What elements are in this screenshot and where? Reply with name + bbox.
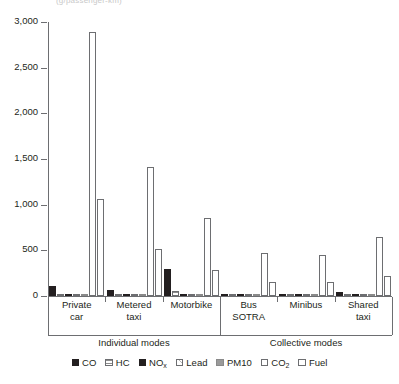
bar[interactable] [73,294,80,296]
bar[interactable] [269,282,276,296]
bar[interactable] [57,294,64,296]
bar[interactable] [384,276,391,296]
bar[interactable] [147,167,154,296]
y-tick-mark [41,22,47,23]
legend-label: NOx [149,357,167,368]
bar[interactable] [311,294,318,296]
y-tick-mark [41,113,47,114]
legend-swatch-icon [216,359,224,367]
supergroup-axis-band: Individual modesCollective modes [48,335,392,353]
legend-swatch-icon [261,359,269,367]
legend-item[interactable]: NOx [139,357,167,368]
legend-item[interactable]: Fuel [298,357,327,368]
x-tick-mark [163,297,164,302]
bar[interactable] [196,294,203,296]
legend-swatch-icon [176,359,184,367]
y-tick-label: 1,000 [14,198,38,209]
bar[interactable] [319,255,326,296]
y-tick-mark [41,68,47,69]
bar[interactable] [139,294,146,296]
bar-group-bars [279,22,334,296]
legend-swatch-icon [72,359,80,367]
supergroup-separator [48,297,49,335]
bar[interactable] [188,294,195,296]
x-tick-mark [105,297,106,302]
supergroup-rule [220,335,392,336]
legend-item[interactable]: PM10 [216,357,251,368]
category-axis-band: PrivatecarMeteredtaxiMotorbikeBusSOTRAMi… [48,297,392,337]
emissions-bar-chart: (g/passenger-km) 05001,0001,5002,0002,50… [0,0,399,384]
y-tick-label: 3,000 [14,15,38,26]
bar[interactable] [261,253,268,296]
bar-group-bars [49,22,104,296]
x-axis-category-label: Privatecar [48,299,105,322]
y-tick-label: 0 [33,289,38,300]
bar[interactable] [164,269,171,296]
bar[interactable] [81,294,88,296]
legend-item[interactable]: Lead [176,357,208,368]
bar[interactable] [360,294,367,296]
bar[interactable] [123,294,130,296]
y-tick-label: 500 [22,243,38,254]
bar[interactable] [245,294,252,296]
supergroup-label: Collective modes [220,337,392,348]
legend-label: Fuel [309,357,327,368]
x-axis-category-label: Motorbike [163,299,220,311]
legend-label: Lead [186,357,207,368]
chart-legend: COHCNOxLeadPM10CO2Fuel [0,357,399,368]
bar-group-bars [336,22,391,296]
legend-label: CO2 [271,357,289,368]
x-tick-mark [335,297,336,302]
x-tick-mark [277,297,278,302]
supergroup-separator [220,297,221,335]
bar[interactable] [115,294,122,296]
y-tick-mark [41,250,47,251]
legend-item[interactable]: CO2 [261,357,290,368]
x-axis-category-label: Minibus [277,299,334,311]
bar[interactable] [229,294,236,296]
supergroup-rule [48,335,220,336]
legend-label: PM10 [227,357,252,368]
bar[interactable] [327,282,334,296]
legend-swatch-icon [105,359,113,367]
bar[interactable] [344,294,351,296]
bar[interactable] [303,294,310,296]
bar[interactable] [107,290,114,296]
bar-group-bars [221,22,276,296]
bar[interactable] [212,270,219,296]
bar[interactable] [376,237,383,296]
bar[interactable] [237,294,244,296]
y-tick-label: 2,000 [14,106,38,117]
bar-group-bars [107,22,162,296]
bar[interactable] [352,294,359,296]
bar[interactable] [49,286,56,296]
supergroup-label: Individual modes [48,337,220,348]
bar[interactable] [89,32,96,296]
bar[interactable] [172,291,179,296]
bar[interactable] [368,294,375,296]
bar[interactable] [287,294,294,296]
bar-group-bars [164,22,219,296]
bar[interactable] [295,294,302,296]
bar[interactable] [65,294,72,296]
y-tick-mark [41,296,47,297]
bar[interactable] [253,294,260,296]
legend-item[interactable]: CO [72,357,97,368]
bar[interactable] [180,294,187,296]
legend-label: HC [116,357,130,368]
x-axis-category-label: Meteredtaxi [105,299,162,322]
bar[interactable] [221,294,228,296]
bar[interactable] [155,249,162,296]
bar[interactable] [336,292,343,296]
bar[interactable] [279,294,286,296]
bar[interactable] [204,218,211,296]
bar[interactable] [97,199,104,296]
legend-item[interactable]: HC [105,357,129,368]
legend-label: CO [82,357,96,368]
x-axis-category-label: BusSOTRA [220,299,277,322]
bar[interactable] [131,294,138,296]
legend-swatch-icon [298,359,306,367]
plot-area: 05001,0001,5002,0002,5003,000 [48,22,392,297]
y-tick-label: 2,500 [14,61,38,72]
supergroup-separator [392,297,393,335]
